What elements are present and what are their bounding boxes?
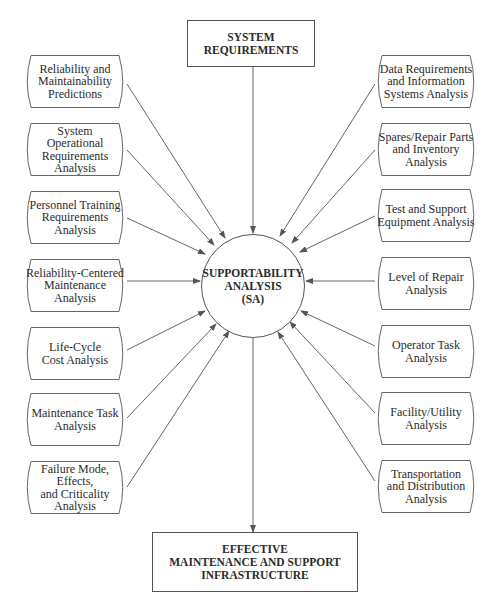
label-line: Systems Analysis [380,88,472,101]
left-item-failure-mode-effects: Failure Mode, Effects, and Criticality A… [23,461,127,514]
left-item-personnel-training: Personnel Training Requirements Analysis [23,191,127,244]
left-item-life-cycle-cost: Life-Cycle Cost Analysis [23,327,127,380]
label-line: (SA) [242,293,264,306]
label-line: and Information [380,75,472,88]
label-line: Life-Cycle [42,341,108,354]
label-line: Analysis [25,500,125,513]
label-line: Maintenance Task [31,407,118,420]
label-line: MAINTENANCE AND SUPPORT [169,556,340,569]
label-line: Maintainability [38,75,112,88]
label-line: Analysis [379,156,473,169]
label-line: Analysis [390,419,461,432]
right-item-test-support-equipment: Test and Support Equipment Analysis [374,189,478,242]
label-line: Analysis [29,224,120,237]
label-line: INFRASTRUCTURE [201,569,308,582]
label-line: Analysis [42,162,109,175]
label-line: Operator Task [392,339,460,352]
label-line: Analysis [388,284,463,297]
label-line: and Distribution [387,480,465,493]
label-line: Analysis [392,352,460,365]
left-item-system-operational-requirements: System Operational Requirements Analysis [23,123,127,176]
label-line: Analysis [31,420,118,433]
right-item-data-requirements: Data Requirements and Information System… [374,55,478,108]
right-item-level-of-repair: Level of Repair Analysis [374,257,478,310]
label-line: REQUIREMENTS [204,44,299,57]
label-line: Analysis [26,292,124,305]
label-line: Operational [42,137,109,150]
left-item-reliability-centered-maintenance: Reliability-Centered Maintenance Analysi… [23,259,127,312]
right-item-spares-repair-parts: Spares/Repair Parts and Inventory Analys… [374,123,478,176]
label-line: Test and Support [378,203,475,216]
label-line: ANALYSIS [224,280,281,293]
right-item-facility-utility: Facility/Utility Analysis [374,392,478,445]
label-line: Facility/Utility [390,406,461,419]
right-item-transportation-distribution: Transportation and Distribution Analysis [374,460,478,513]
label-line: Maintenance [26,279,124,292]
label-line: Predictions [38,88,112,101]
right-item-operator-task: Operator Task Analysis [374,325,478,378]
label-line: Level of Repair [388,271,463,284]
left-item-reliability-maintainability: Reliability and Maintainability Predicti… [23,55,127,108]
system-requirements-box: SYSTEM REQUIREMENTS [187,20,315,67]
label-line: SYSTEM [227,31,274,44]
effective-maintenance-box: EFFECTIVE MAINTENANCE AND SUPPORT INFRAS… [152,532,358,592]
label-line: Cost Analysis [42,354,108,367]
label-line: Requirements [29,211,120,224]
left-item-maintenance-task: Maintenance Task Analysis [23,393,127,446]
label-line: Failure Mode, Effects, [25,463,125,488]
supportability-analysis-circle: SUPPORTABILITY ANALYSIS (SA) [201,234,305,338]
label-line: EFFECTIVE [222,543,288,556]
label-line: SUPPORTABILITY [203,267,304,280]
label-line: and Inventory [379,143,473,156]
label-line: Analysis [387,493,465,506]
label-line: Equipment Analysis [378,216,475,229]
